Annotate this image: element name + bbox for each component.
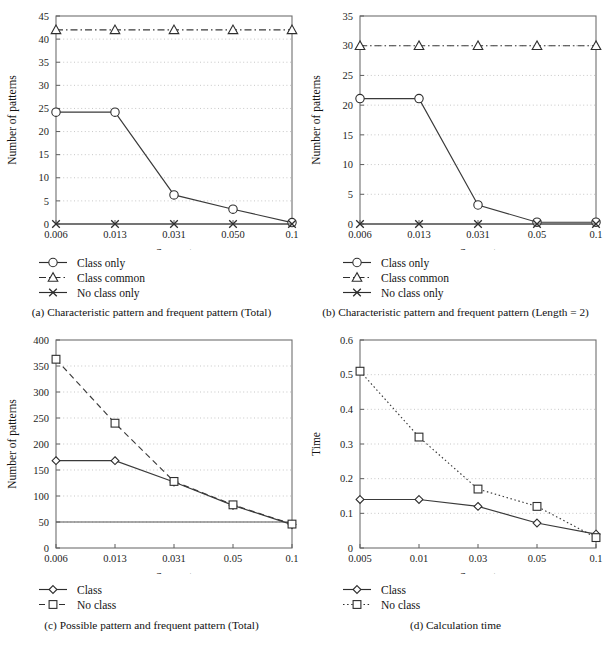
data-point-marker — [533, 519, 541, 527]
legend-label: Class only — [77, 257, 125, 269]
y-tick-label: 400 — [33, 335, 49, 346]
legend-swatch-circle-icon — [342, 256, 372, 269]
data-point-marker — [49, 586, 57, 594]
x-tick-label: 0.013 — [103, 553, 127, 564]
legend-swatch-diamond-icon — [342, 583, 372, 596]
x-tick-label: 0.1 — [589, 229, 602, 240]
panel-b: 051015202530350.0060.0130.0310.050.1Supp… — [304, 0, 607, 325]
x-tick-label: 0.03 — [469, 553, 487, 564]
data-point-marker — [52, 108, 60, 116]
legend-item-1: Class common — [304, 270, 607, 285]
legend-swatch-triangle-icon — [38, 271, 68, 284]
y-tick-label: 40 — [39, 34, 50, 45]
data-point-marker — [229, 205, 237, 213]
data-point-marker — [356, 94, 364, 102]
y-tick-label: 300 — [33, 387, 49, 398]
legend-swatch-circle-icon — [38, 256, 68, 269]
series-markers-0 — [356, 496, 600, 538]
data-point-marker — [111, 457, 119, 465]
legend-label: No class — [77, 599, 116, 611]
x-tick-label: 0.013 — [103, 229, 127, 240]
x-tick-label: 0.031 — [466, 229, 490, 240]
x-tick-label: 0.006 — [348, 229, 372, 240]
y-tick-label: 25 — [343, 70, 354, 81]
x-tick-label: 0.1 — [285, 553, 298, 564]
plot-frame — [360, 340, 596, 548]
plot-area-d: 00.10.20.30.40.50.60.0050.010.030.050.1S… — [304, 324, 607, 574]
caption-tag: (c) — [44, 619, 59, 631]
x-tick-label: 0.050 — [221, 229, 245, 240]
data-point-marker — [533, 503, 541, 511]
legend-label: Class only — [381, 257, 429, 269]
y-tick-label: 10 — [39, 172, 50, 183]
legend-swatch-diamond-icon — [38, 583, 68, 596]
legend-item-1: No class — [0, 597, 303, 612]
y-tick-label: 50 — [39, 517, 50, 528]
series-markers-1 — [52, 355, 296, 528]
legend-swatch-triangle-icon — [342, 271, 372, 284]
plot-area-a: 0510152025303540450.0060.0130.0310.0500.… — [0, 0, 303, 250]
caption-b: (b) Characteristic pattern and frequent … — [304, 306, 607, 318]
caption-tag: (d) — [410, 619, 426, 631]
x-tick-label: 0.05 — [528, 229, 546, 240]
x-tick-label: 0.01 — [410, 553, 428, 564]
y-tick-label: 30 — [39, 80, 50, 91]
data-point-marker — [415, 94, 423, 102]
plot-area-c: 0501001502002503003504000.0060.0130.0310… — [0, 324, 303, 574]
x-tick-label: 0.05 — [528, 553, 546, 564]
x-tick-label: 0.031 — [162, 229, 186, 240]
data-point-marker — [474, 485, 482, 493]
x-tick-label: 0.1 — [589, 553, 602, 564]
data-point-marker — [229, 501, 237, 509]
caption-text: Characteristic pattern and frequent patt… — [47, 306, 271, 318]
y-axis-title: Number of patterns — [310, 75, 323, 165]
legend-label: No class only — [77, 287, 140, 299]
y-tick-label: 10 — [343, 159, 354, 170]
legend-d: ClassNo class — [304, 582, 607, 612]
legend-item-0: Class only — [0, 255, 303, 270]
series-markers-0 — [52, 108, 296, 227]
legend-item-1: No class — [304, 597, 607, 612]
y-tick-label: 0.6 — [340, 335, 353, 346]
data-point-marker — [592, 218, 600, 226]
y-tick-label: 0.1 — [340, 508, 353, 519]
y-tick-label: 20 — [39, 126, 50, 137]
legend-swatch-cross-icon — [342, 286, 372, 299]
y-tick-label: 0.2 — [340, 473, 353, 484]
y-tick-label: 150 — [33, 465, 49, 476]
series-markers-1 — [356, 367, 600, 541]
data-point-marker — [474, 201, 482, 209]
caption-a: (a) Characteristic pattern and frequent … — [0, 306, 303, 318]
data-point-marker — [170, 478, 178, 486]
y-tick-label: 0.3 — [340, 439, 353, 450]
y-tick-label: 35 — [343, 11, 354, 22]
data-point-marker — [474, 503, 482, 511]
data-point-marker — [111, 108, 119, 116]
legend-item-0: Class only — [304, 255, 607, 270]
y-tick-label: 350 — [33, 361, 49, 372]
data-point-marker — [52, 457, 60, 465]
x-axis-title: Support — [460, 247, 497, 250]
data-point-marker — [52, 355, 60, 363]
series-line-1 — [56, 359, 292, 524]
caption-d: (d) Calculation time — [304, 619, 607, 631]
legend-swatch-cross-icon — [38, 286, 68, 299]
series-line-0 — [56, 112, 292, 222]
legend-item-2: No class only — [0, 285, 303, 300]
legend-c: ClassNo class — [0, 582, 303, 612]
y-tick-label: 35 — [39, 57, 50, 68]
panel-c: 0501001502002503003504000.0060.0130.0310… — [0, 324, 303, 649]
x-tick-label: 0.006 — [44, 229, 68, 240]
data-point-marker — [353, 586, 361, 594]
data-point-marker — [356, 367, 364, 375]
x-tick-label: 0.1 — [285, 229, 298, 240]
series-line-1 — [360, 371, 596, 537]
series-line-0 — [56, 461, 292, 525]
data-point-marker — [170, 191, 178, 199]
legend-item-0: Class — [304, 582, 607, 597]
y-tick-label: 250 — [33, 413, 49, 424]
data-point-marker — [111, 419, 119, 427]
panel-a: 0510152025303540450.0060.0130.0310.0500.… — [0, 0, 303, 325]
legend-item-0: Class — [0, 582, 303, 597]
legend-a: Class onlyClass commonNo class only — [0, 255, 303, 300]
